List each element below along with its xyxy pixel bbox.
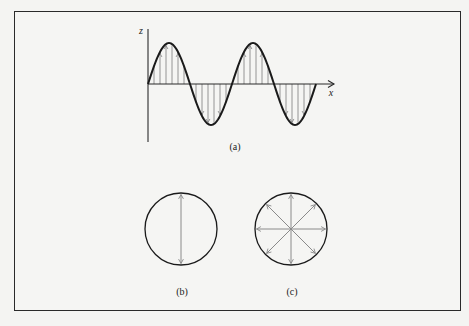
figure-drawing [0, 0, 469, 326]
caption-a: (a) [229, 141, 240, 152]
panel-a-wave-diagram [148, 29, 334, 142]
caption-c: (c) [286, 286, 297, 297]
z-axis-label: z [139, 25, 143, 36]
vertical-double-arrow-icon [179, 195, 184, 264]
caption-b: (b) [176, 286, 188, 297]
x-axis-label: x [329, 87, 333, 98]
figure: z x (a) (b) (c) [0, 0, 469, 326]
panel-c-unpolarized [255, 193, 327, 265]
panel-b-linear-polarization [145, 193, 217, 265]
radial-arrows-icon [257, 195, 326, 264]
